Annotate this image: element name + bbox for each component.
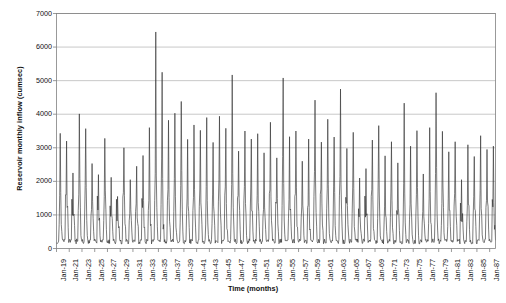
x-tick-label: Jan-65 — [353, 259, 360, 281]
x-axis-title: Time (months) — [0, 284, 506, 293]
x-tick-label: Jan-79 — [442, 259, 449, 281]
x-axis-tick-labels: Jan-19Jan-21Jan-23Jan-25Jan-27Jan-29Jan-… — [0, 252, 506, 302]
x-tick-label: Jan-61 — [327, 259, 334, 281]
x-tick-label: Jan-51 — [263, 259, 270, 281]
x-tick-label: Jan-87 — [493, 259, 500, 281]
x-tick-label: Jan-35 — [161, 259, 168, 281]
x-tick-label: Jan-49 — [251, 259, 258, 281]
x-tick-label: Jan-45 — [225, 259, 232, 281]
x-tick-label: Jan-85 — [480, 259, 487, 281]
x-tick-label: Jan-71 — [391, 259, 398, 281]
x-tick-label: Jan-29 — [123, 259, 130, 281]
x-tick-label: Jan-55 — [289, 259, 296, 281]
x-tick-label: Jan-83 — [467, 259, 474, 281]
x-tick-label: Jan-63 — [340, 259, 347, 281]
x-tick-label: Jan-37 — [174, 259, 181, 281]
x-tick-label: Jan-73 — [403, 259, 410, 281]
x-tick-label: Jan-21 — [72, 259, 79, 281]
x-tick-label: Jan-81 — [454, 259, 461, 281]
x-tick-label: Jan-39 — [187, 259, 194, 281]
chart-figure: Reservoir monthly inflow (cumsec) 010002… — [0, 0, 506, 303]
x-tick-label: Jan-27 — [110, 259, 117, 281]
x-tick-label: Jan-57 — [302, 259, 309, 281]
x-tick-label: Jan-31 — [136, 259, 143, 281]
x-tick-label: Jan-75 — [416, 259, 423, 281]
x-tick-label: Jan-59 — [314, 259, 321, 281]
x-tick-label: Jan-23 — [85, 259, 92, 281]
x-tick-label: Jan-25 — [98, 259, 105, 281]
x-tick-label: Jan-67 — [365, 259, 372, 281]
x-tick-label: Jan-53 — [276, 259, 283, 281]
x-tick-label: Jan-19 — [60, 259, 67, 281]
x-tick-label: Jan-47 — [238, 259, 245, 281]
x-tick-label: Jan-43 — [212, 259, 219, 281]
x-tick-label: Jan-69 — [378, 259, 385, 281]
x-tick-label: Jan-77 — [429, 259, 436, 281]
x-tick-label: Jan-33 — [149, 259, 156, 281]
data-series-line — [57, 32, 496, 244]
x-tick-label: Jan-41 — [200, 259, 207, 281]
